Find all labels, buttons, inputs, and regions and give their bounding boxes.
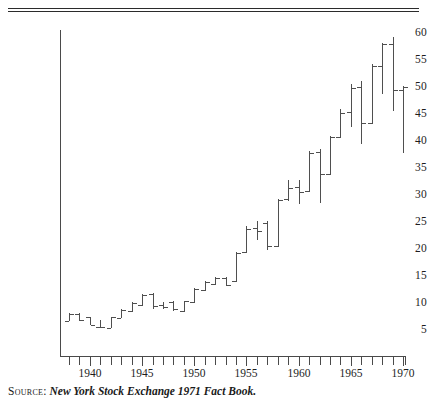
x-axis-tick — [288, 357, 289, 365]
ohlc-close-tick — [122, 310, 126, 311]
x-axis-tick — [226, 357, 227, 365]
x-axis-tick — [246, 357, 247, 366]
ohlc-open-tick — [378, 66, 382, 67]
ohlc-bar-range — [163, 302, 164, 309]
ohlc-close-tick — [227, 285, 231, 286]
ohlc-close-tick — [70, 314, 74, 315]
ohlc-close-tick — [247, 229, 251, 230]
ohlc-bar-range — [382, 43, 383, 94]
ohlc-bar-range — [246, 226, 247, 252]
ohlc-bar-range — [351, 84, 352, 127]
ohlc-open-tick — [96, 327, 100, 328]
x-axis-tick — [278, 357, 279, 365]
ohlc-bar-range — [288, 180, 289, 202]
source-title: New York Stock Exchange 1971 Fact Book. — [50, 385, 256, 397]
ohlc-close-tick — [143, 295, 147, 296]
ohlc-close-tick — [133, 303, 137, 304]
x-axis-tick — [351, 357, 352, 366]
ohlc-open-tick — [86, 317, 90, 318]
x-axis-tick — [184, 357, 185, 365]
ohlc-open-tick — [357, 87, 361, 88]
ohlc-close-tick — [394, 90, 398, 91]
x-axis-tick-label: 1960 — [279, 367, 319, 379]
x-axis-tick — [173, 357, 174, 365]
y-axis-tick-label: 10 — [375, 297, 427, 309]
x-axis-tick-label: 1950 — [174, 367, 214, 379]
x-axis-tick — [205, 357, 206, 365]
ohlc-close-tick — [154, 306, 158, 307]
ohlc-close-tick — [289, 188, 293, 189]
x-axis-tick — [142, 357, 143, 366]
ohlc-close-tick — [362, 123, 366, 124]
x-axis-tick-label: 1945 — [122, 367, 162, 379]
ohlc-close-tick — [383, 44, 387, 45]
ohlc-open-tick — [159, 305, 163, 306]
ohlc-open-tick — [336, 137, 340, 138]
ohlc-close-tick — [258, 231, 262, 232]
x-axis-tick — [267, 357, 268, 365]
y-axis-tick-label: 35 — [375, 162, 427, 174]
figure-root: 51015202530354045505560 1940194519501955… — [0, 0, 427, 405]
x-axis-tick — [372, 357, 373, 365]
ohlc-bar-range — [372, 64, 373, 124]
ohlc-bar-range — [309, 151, 310, 192]
ohlc-bar-range — [142, 294, 143, 305]
ohlc-open-tick — [263, 223, 267, 224]
ohlc-bar-range — [361, 81, 362, 144]
y-axis-tick-label: 25 — [375, 216, 427, 228]
ohlc-close-tick — [279, 200, 283, 201]
ohlc-close-tick — [268, 246, 272, 247]
x-axis-tick-label: 1940 — [70, 367, 110, 379]
chart-plot-area: 51015202530354045505560 1940194519501955… — [0, 0, 427, 360]
x-axis-tick-label: 1970 — [383, 367, 423, 379]
x-axis-tick — [90, 357, 91, 366]
ohlc-open-tick — [368, 123, 372, 124]
source-label: Source: — [8, 385, 47, 397]
ohlc-close-tick — [112, 317, 116, 318]
ohlc-bar-range — [403, 86, 404, 154]
ohlc-bar-range — [278, 199, 279, 248]
ohlc-bar-range — [330, 136, 331, 175]
ohlc-open-tick — [75, 314, 79, 315]
y-axis-tick-label: 5 — [375, 324, 427, 336]
x-axis-tick — [340, 357, 341, 365]
x-axis-tick — [257, 357, 258, 365]
x-axis-tick — [320, 357, 321, 365]
ohlc-close-tick — [341, 113, 345, 114]
ohlc-open-tick — [253, 228, 257, 229]
ohlc-open-tick — [211, 284, 215, 285]
x-axis-tick — [236, 357, 237, 365]
y-axis-tick-label: 45 — [375, 108, 427, 120]
ohlc-close-tick — [80, 320, 84, 321]
ohlc-close-tick — [373, 66, 377, 67]
y-axis-tick-label: 60 — [375, 27, 427, 39]
ohlc-bar-range — [194, 288, 195, 303]
ohlc-close-tick — [300, 192, 304, 193]
ohlc-open-tick — [201, 290, 205, 291]
ohlc-bar-range — [320, 149, 321, 204]
ohlc-bar-range — [184, 301, 185, 312]
ohlc-open-tick — [326, 174, 330, 175]
x-axis-tick — [382, 357, 383, 365]
ohlc-open-tick — [180, 311, 184, 312]
ohlc-bar-range — [153, 293, 154, 309]
y-axis-tick-label: 15 — [375, 270, 427, 282]
source-caption: Source: New York Stock Exchange 1971 Fac… — [8, 385, 256, 398]
x-axis-tick-label: 1955 — [226, 367, 266, 379]
ohlc-close-tick — [195, 289, 199, 290]
ohlc-bar-range — [111, 317, 112, 329]
x-axis-tick — [309, 357, 310, 365]
x-axis-tick — [153, 357, 154, 365]
ohlc-open-tick — [399, 90, 403, 91]
y-axis-tick-label: 40 — [375, 135, 427, 147]
ohlc-close-tick — [164, 307, 168, 308]
x-axis-tick — [163, 357, 164, 365]
x-axis-tick — [299, 357, 300, 366]
x-axis-tick — [69, 357, 70, 365]
ohlc-close-tick — [404, 87, 408, 88]
ohlc-open-tick — [222, 278, 226, 279]
ohlc-open-tick — [190, 302, 194, 303]
x-axis-tick — [330, 357, 331, 365]
ohlc-open-tick — [149, 294, 153, 295]
ohlc-open-tick — [284, 199, 288, 200]
